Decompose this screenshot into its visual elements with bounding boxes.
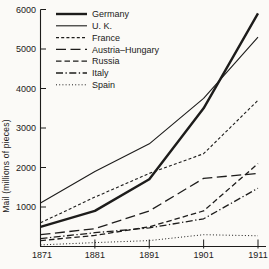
y-tick-label: 5000 [16,44,36,54]
x-tick-label: 1911 [248,250,267,260]
legend-label: Russia [92,56,120,66]
legend-row: Austria–Hungary [56,45,160,55]
legend-row: Italy [56,68,109,78]
mail-by-country-line-chart: GermanyU. K.FranceAustria–HungaryRussiaI… [0,0,269,269]
chart-figure: GermanyU. K.FranceAustria–HungaryRussiaI… [0,0,269,269]
legend: GermanyU. K.FranceAustria–HungaryRussiaI… [56,9,160,90]
x-tick-label: 1891 [139,250,159,260]
y-tick-label: 4000 [16,84,36,94]
y-tick-label: 6000 [16,5,36,15]
legend-row: France [56,33,120,43]
y-tick-label: 3000 [16,123,36,133]
legend-row: Spain [56,80,115,90]
legend-label: Italy [92,68,109,78]
x-tick-label: 1881 [85,250,105,260]
legend-label: U. K. [92,21,112,31]
x-tick-label: 1871 [32,250,52,260]
tick-labels: 1000200030004000500060001871188118911901… [16,5,268,260]
legend-row: U. K. [56,21,112,31]
series-line-austria-hungary [41,173,259,234]
legend-label: Spain [92,80,115,90]
series-line-russia [41,164,259,241]
legend-row: Russia [56,56,120,66]
y-tick-label: 1000 [16,202,36,212]
series-line-france [41,100,259,223]
legend-label: Austria–Hungary [92,45,160,55]
legend-label: France [92,33,120,43]
legend-row: Germany [56,9,130,19]
x-tick-label: 1901 [194,250,214,260]
y-tick-label: 2000 [16,163,36,173]
y-axis-title: Mail (millions of pieces) [1,119,11,212]
legend-label: Germany [92,9,130,19]
